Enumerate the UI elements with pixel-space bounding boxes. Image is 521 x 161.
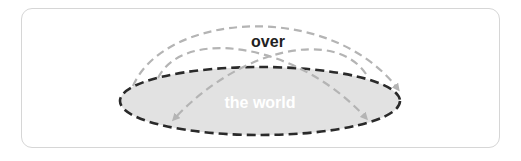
world-label: the world	[224, 94, 295, 111]
diagram-canvas: the world over	[0, 0, 521, 161]
over-label: over	[251, 33, 285, 50]
